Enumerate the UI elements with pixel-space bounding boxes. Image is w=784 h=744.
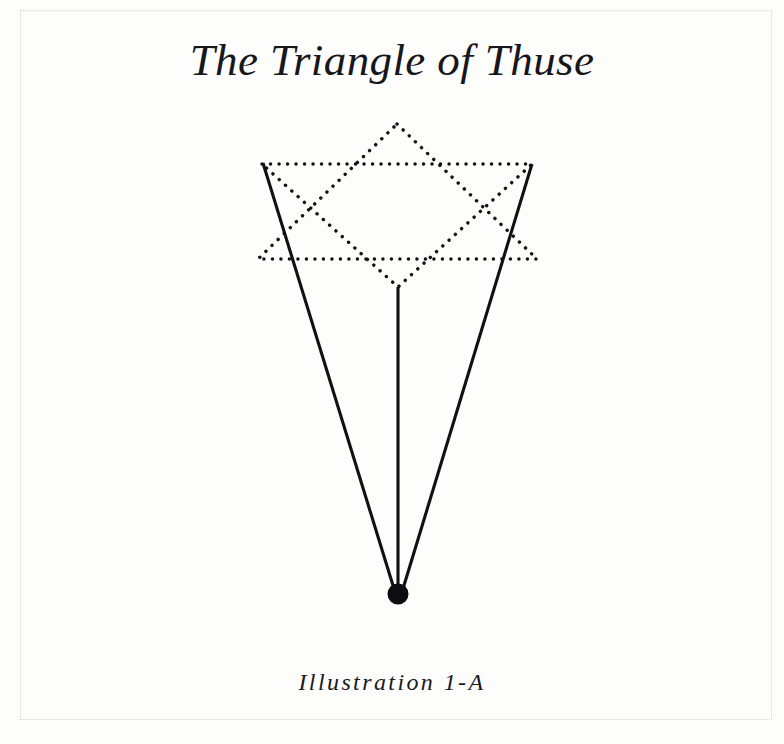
illustration-plate: The Triangle of Thuse Illustration 1-A: [0, 0, 784, 744]
triangle-of-thuse-diagram: [0, 0, 784, 744]
left-solid-ray: [263, 163, 395, 592]
downward-triangle-dotted: [262, 164, 532, 287]
right-solid-ray: [402, 164, 532, 592]
figure-caption: Illustration 1-A: [0, 669, 784, 696]
upward-triangle-dotted: [258, 124, 537, 259]
apex-node-dot: [388, 584, 409, 605]
